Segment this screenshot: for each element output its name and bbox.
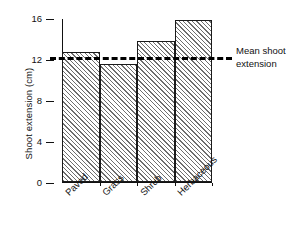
plot-area bbox=[62, 19, 212, 183]
y-tick-label-4: 4 bbox=[18, 137, 42, 147]
mean-shoot-extension-line bbox=[50, 57, 232, 60]
y-tick-mark-8 bbox=[46, 101, 54, 102]
x-tick-mark-paved bbox=[100, 183, 101, 186]
y-tick-label-8: 8 bbox=[18, 96, 42, 106]
y-tick-mark-16 bbox=[46, 19, 54, 20]
y-tick-mark-0 bbox=[46, 183, 54, 184]
bar-paved bbox=[62, 52, 100, 182]
bar-shrub bbox=[137, 41, 175, 182]
legend-line-2: extension bbox=[236, 58, 277, 69]
x-tick-mark-grass bbox=[137, 183, 138, 186]
mean-shoot-extension-label: Mean shoot extension bbox=[236, 45, 293, 70]
y-tick-label-16: 16 bbox=[18, 14, 42, 24]
bar-grass bbox=[100, 64, 138, 182]
x-tick-mark-shrub bbox=[175, 183, 176, 186]
y-tick-label-12: 12 bbox=[18, 55, 42, 65]
chart-figure: Shoot extension (cm) 16 12 8 4 0 Mean sh… bbox=[0, 0, 293, 239]
legend-line-1: Mean shoot bbox=[236, 45, 286, 56]
y-tick-label-0: 0 bbox=[18, 178, 42, 188]
x-tick-mark-herbaceous bbox=[212, 183, 213, 186]
y-tick-mark-4 bbox=[46, 142, 54, 143]
y-tick-mark-12 bbox=[46, 60, 54, 61]
